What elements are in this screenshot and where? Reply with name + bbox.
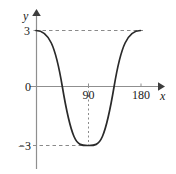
- x-tick-label-90: 90: [83, 88, 95, 102]
- x-tick-label-180: 180: [132, 88, 150, 102]
- y-tick-label-0: 0: [25, 80, 31, 94]
- y-tick-label-minus-3: −3: [18, 139, 31, 153]
- x-axis-label: x: [159, 89, 166, 103]
- plot-canvas: y x 3 0 −3 90 180: [0, 0, 176, 174]
- y-axis-arrow-icon: [32, 9, 41, 16]
- cosine-graph-figure: y x 3 0 −3 90 180: [0, 0, 176, 174]
- y-tick-label-3: 3: [24, 24, 30, 38]
- y-axis-label: y: [22, 9, 29, 23]
